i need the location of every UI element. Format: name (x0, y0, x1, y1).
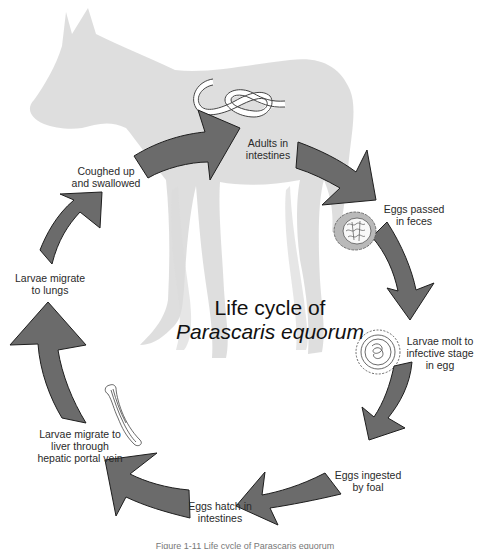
stage-label-eggs-ingested: Eggs ingested by foal (328, 469, 408, 493)
cycle-arrow (40, 192, 102, 264)
stage-label-eggs-passed: Eggs passed in feces (374, 203, 454, 227)
diagram-title: Life cycle of Parascaris equorum (150, 296, 390, 344)
title-line-1: Life cycle of (215, 296, 326, 319)
stage-label-larvae-lungs: Larvae migrate to lungs (10, 272, 90, 296)
life-cycle-diagram: Adults in intestines Eggs passed in fece… (0, 0, 478, 549)
title-species: Parascaris equorum (150, 320, 390, 344)
stage-label-coughed: Coughed up and swallowed (66, 165, 146, 189)
figure-caption: Figure 1-11 Life cycle of Parascaris equ… (130, 540, 360, 549)
fertile-egg-icon (334, 212, 376, 250)
cycle-arrow (10, 302, 86, 423)
stage-label-larvae-liver: Larvae migrate to liver through hepatic … (30, 428, 130, 464)
stage-label-adults: Adults in intestines (228, 137, 308, 161)
stage-label-larvae-molt: Larvae molt to infective stage in egg (400, 335, 478, 371)
cycle-arrow (362, 362, 412, 440)
stage-label-eggs-hatch: Eggs hatch in intestines (180, 500, 260, 524)
